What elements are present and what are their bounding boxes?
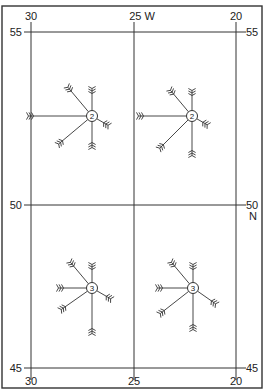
calm-count-label: 2 bbox=[190, 112, 195, 121]
latitude-label-left: 50 bbox=[10, 199, 22, 211]
calm-count-label: 3 bbox=[90, 284, 95, 293]
calm-count-label: 2 bbox=[90, 112, 95, 121]
calm-count-label: 3 bbox=[191, 284, 196, 293]
longitude-label-top: 30 bbox=[25, 10, 37, 22]
longitude-label-top: 20 bbox=[230, 10, 242, 22]
longitude-label-bottom: 20 bbox=[230, 375, 242, 387]
latitude-label-right: 45 bbox=[246, 362, 258, 374]
latitude-label-left: 45 bbox=[10, 362, 22, 374]
latitude-label-left: 55 bbox=[10, 26, 22, 38]
longitude-label-bottom: 25 bbox=[128, 375, 140, 387]
hemisphere-label: N bbox=[249, 210, 257, 222]
map-frame bbox=[2, 6, 262, 388]
wind-rose-map: 303025 W25202055555050N4545 2233 bbox=[0, 0, 264, 392]
latitude-label-right: 55 bbox=[246, 26, 258, 38]
longitude-label-bottom: 30 bbox=[25, 375, 37, 387]
longitude-label-top: 25 W bbox=[129, 10, 155, 22]
